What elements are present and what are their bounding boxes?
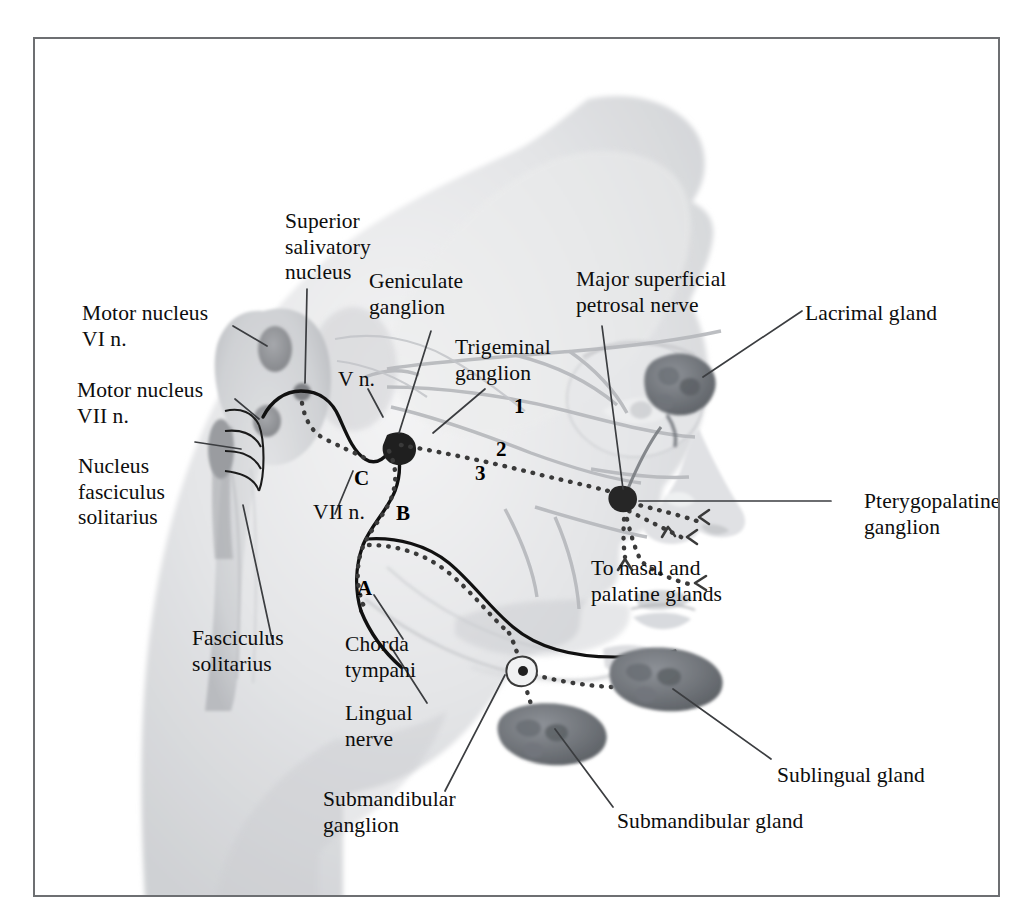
label-sublingual-gland: Sublingual gland	[777, 763, 925, 789]
nucleus-solitarius-blob	[208, 419, 234, 479]
motor-nucleus-vi-blob	[258, 326, 292, 372]
marker-3: 3	[475, 461, 486, 486]
label-v-n: V n.	[338, 367, 375, 393]
label-nucleus-fasciculus-solitarius: Nucleus fasciculus solitarius	[78, 454, 165, 531]
marker-c: C	[354, 466, 369, 491]
label-submandibular-gland: Submandibular gland	[617, 809, 803, 835]
label-vii-n: VII n.	[313, 500, 365, 526]
label-to-nasal-and-palatine-glands: To nasal and palatine glands	[591, 556, 722, 607]
label-fasciculus-solitarius: Fasciculus solitarius	[192, 626, 284, 677]
label-submandibular-ganglion: Submandibular ganglion	[323, 787, 456, 838]
submandibular-ganglion-blob	[506, 657, 537, 687]
marker-a: A	[357, 576, 372, 601]
label-pterygopalatine-ganglion: Pterygopalatine ganglion	[864, 489, 1000, 540]
label-trigeminal-ganglion: Trigeminal ganglion	[455, 335, 551, 386]
label-geniculate-ganglion: Geniculate ganglion	[369, 269, 463, 320]
sublingual-gland-blob	[609, 648, 722, 712]
submandibular-gland-blob	[497, 703, 606, 765]
label-superior-salivatory-nucleus: Superior salivatory nucleus	[285, 209, 371, 286]
label-lacrimal-gland: Lacrimal gland	[805, 301, 937, 327]
marker-2: 2	[496, 437, 507, 462]
label-chorda-tympani: Chorda tympani	[345, 632, 416, 683]
label-major-superficial-petrosal-nerve: Major superficial petrosal nerve	[576, 267, 726, 318]
marker-b: B	[396, 501, 410, 526]
label-lingual-nerve: Lingual nerve	[345, 701, 413, 752]
label-motor-nucleus-vi: Motor nucleus VI n.	[82, 301, 208, 352]
marker-1: 1	[514, 394, 525, 419]
figure-frame: Superior salivatory nucleus Motor nucleu…	[33, 37, 1000, 897]
label-motor-nucleus-vii: Motor nucleus VII n.	[77, 378, 203, 429]
